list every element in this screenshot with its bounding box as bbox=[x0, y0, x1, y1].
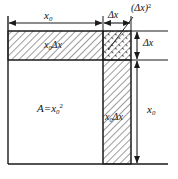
diagram-canvas bbox=[0, 0, 178, 179]
label-corner-square: (Δx)2 bbox=[131, 3, 151, 13]
label-right-height: x0 bbox=[147, 104, 155, 117]
corner-square-rect bbox=[103, 31, 131, 60]
figure-container: x0 Δx (Δx)2 Δx x0 x0Δx x0Δx A=x02 bbox=[0, 0, 178, 179]
label-top-increment: Δx bbox=[108, 10, 118, 20]
label-top-band: x0Δx bbox=[44, 40, 62, 51]
label-right-strip: x0Δx bbox=[105, 112, 123, 123]
label-area-formula: A=x02 bbox=[37, 103, 63, 116]
label-top-width: x0 bbox=[44, 10, 52, 23]
label-right-increment: Δx bbox=[143, 38, 153, 48]
